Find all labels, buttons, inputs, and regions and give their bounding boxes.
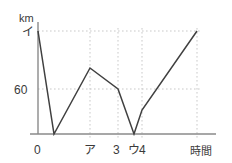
x-tick-label-three: 3 xyxy=(113,143,120,157)
x-tick-label-a: ア xyxy=(84,143,96,157)
horizontal-gridlines xyxy=(38,31,200,89)
x-tick-label-origin: 0 xyxy=(34,143,41,157)
x-tick-label-four: 4 xyxy=(139,143,146,157)
chart-svg: km イ 60 0 ア 3 ウ 4 時間 xyxy=(0,0,232,163)
y-tick-label-60: 60 xyxy=(14,83,28,97)
vertical-gridlines xyxy=(90,28,197,138)
series-line-distance xyxy=(38,31,197,134)
x-axis-title: 時間 xyxy=(190,145,212,157)
y-tick-label-top: イ xyxy=(22,25,34,39)
line-chart: km イ 60 0 ア 3 ウ 4 時間 xyxy=(0,0,232,163)
y-axis-unit-label: km xyxy=(19,12,34,24)
